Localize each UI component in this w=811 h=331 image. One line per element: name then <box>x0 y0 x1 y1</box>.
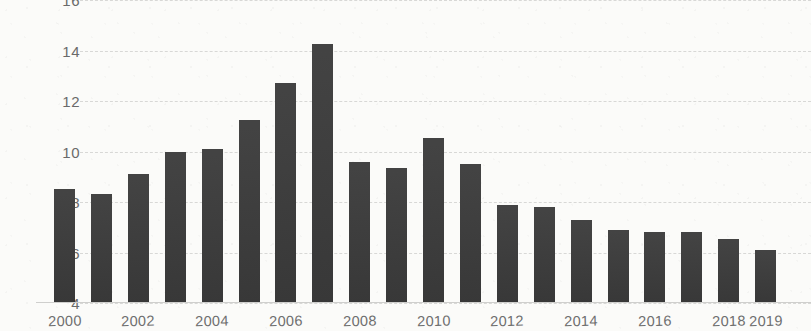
x-axis-tick-label: 2012 <box>490 313 524 330</box>
x-axis-tick-label: 2006 <box>269 313 303 330</box>
bar <box>644 232 665 303</box>
y-axis-tick-label: 12 <box>44 93 80 110</box>
bar <box>608 230 629 303</box>
x-axis-tick-labels: 2000200220042006200820102012201420162018… <box>44 303 811 331</box>
bar <box>165 152 186 304</box>
bar <box>755 250 776 303</box>
bar <box>349 162 370 303</box>
x-axis-tick-label: 2000 <box>48 313 82 330</box>
bar-chart: 46810121416 2000200220042006200820102012… <box>0 0 811 331</box>
gridline <box>80 152 811 153</box>
x-axis-tick-label: 2002 <box>121 313 155 330</box>
bar <box>54 189 75 303</box>
x-axis-tick-label: 2019 <box>749 313 783 330</box>
bar <box>571 220 592 303</box>
y-axis-tick-label: 16 <box>44 0 80 9</box>
bar <box>497 205 518 303</box>
gridline <box>80 51 811 52</box>
x-axis-tick-label: 2016 <box>638 313 672 330</box>
x-axis-tick-label: 2018 <box>712 313 746 330</box>
bar <box>128 174 149 303</box>
bar <box>312 44 333 303</box>
bar <box>239 120 260 303</box>
bar <box>460 164 481 303</box>
y-axis-tick-label: 14 <box>44 42 80 59</box>
bar <box>423 138 444 303</box>
bar <box>718 239 739 303</box>
y-axis-tick-label: 10 <box>44 143 80 160</box>
x-axis-tick-label: 2014 <box>564 313 598 330</box>
bar <box>534 207 555 303</box>
bar <box>202 149 223 303</box>
x-axis-tick-label: 2008 <box>343 313 377 330</box>
bar <box>275 83 296 303</box>
gridline <box>80 101 811 102</box>
gridline <box>80 0 811 1</box>
x-axis-tick-label: 2010 <box>417 313 451 330</box>
x-axis-tick-label: 2004 <box>195 313 229 330</box>
bar <box>386 168 407 303</box>
bar <box>681 232 702 303</box>
gridline <box>80 202 811 203</box>
plot-area: 46810121416 <box>44 0 811 303</box>
bar <box>91 194 112 303</box>
